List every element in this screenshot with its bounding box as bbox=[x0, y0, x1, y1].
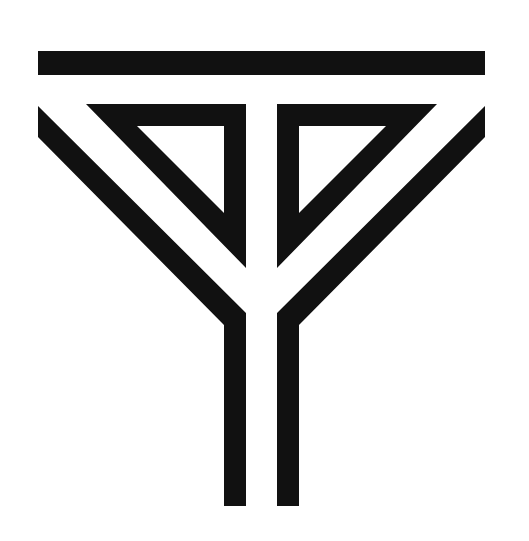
top-bar bbox=[38, 51, 485, 75]
left-band-stem bbox=[38, 106, 246, 506]
logo-mark bbox=[0, 0, 529, 541]
right-band-stem bbox=[277, 106, 485, 506]
